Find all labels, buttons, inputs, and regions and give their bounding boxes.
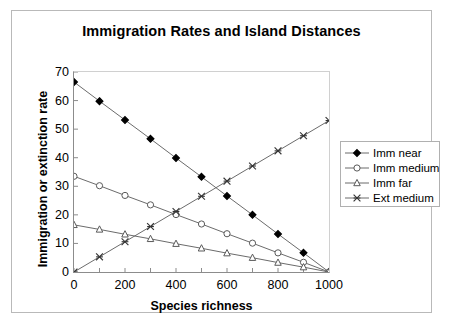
y-tick-label: 40 xyxy=(29,151,69,165)
legend-marker-open-triangle-icon xyxy=(344,176,370,190)
legend-marker-open-circle-icon xyxy=(344,161,370,175)
y-tick-label: 50 xyxy=(29,122,69,136)
legend-item[interactable]: Ext medium xyxy=(344,191,439,205)
plot-series-svg xyxy=(74,72,329,272)
legend-marker-cross-x-icon xyxy=(344,191,370,205)
legend-marker-filled-diamond-icon xyxy=(344,146,370,160)
legend-item[interactable]: Imm far xyxy=(344,176,439,190)
legend-label: Imm near xyxy=(370,147,422,159)
y-tick-label: 10 xyxy=(29,236,69,250)
x-axis-tick-labels: 02004006008001000 xyxy=(73,278,330,296)
y-tick-label: 0 xyxy=(29,265,69,279)
legend-item[interactable]: Imm medium xyxy=(344,161,439,175)
legend-label: Ext medium xyxy=(370,192,434,204)
x-axis-title: Species richness xyxy=(73,299,330,313)
plot-area xyxy=(73,71,330,273)
y-tick-label: 30 xyxy=(29,179,69,193)
y-tick-label: 70 xyxy=(29,65,69,79)
legend-label: Imm medium xyxy=(370,162,439,174)
legend-label: Imm far xyxy=(370,177,412,189)
x-tick-label: 1000 xyxy=(299,278,359,292)
chart-title: Immigration Rates and Island Distances xyxy=(12,23,431,39)
chart-frame: Immigration Rates and Island Distances I… xyxy=(11,10,432,313)
y-axis-tick-labels: 010203040506070 xyxy=(24,71,69,273)
y-tick-label: 20 xyxy=(29,208,69,222)
legend-item[interactable]: Imm near xyxy=(344,146,439,160)
chart-legend: Imm nearImm mediumImm farExt medium xyxy=(340,141,440,207)
y-tick-label: 60 xyxy=(29,94,69,108)
